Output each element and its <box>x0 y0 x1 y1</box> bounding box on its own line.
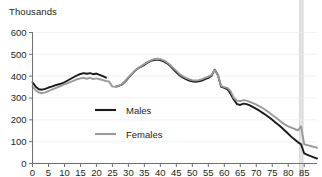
y-tick-label: 600 <box>11 27 27 38</box>
x-tick-label: 15 <box>75 167 86 177</box>
x-tick-label: 85 <box>299 167 310 177</box>
x-tick-label: 5 <box>46 167 51 177</box>
x-tick-label: 60 <box>219 167 230 177</box>
y-tick-label-layer: 0100200300400500600 <box>11 27 27 169</box>
x-tick-label: 80 <box>283 167 294 177</box>
axis-layer <box>29 32 317 167</box>
legend-label-females: Females <box>126 129 163 140</box>
x-tick-label: 0 <box>30 167 35 177</box>
x-tick-label: 30 <box>123 167 134 177</box>
series-layer <box>33 59 318 159</box>
x-tick-label-layer: 0510152025303540455055606570758085 <box>30 167 310 177</box>
chart-plot-area: 0100200300400500600 05101520253035404550… <box>0 0 322 177</box>
y-tick-label: 200 <box>11 114 27 125</box>
x-tick-label: 75 <box>267 167 278 177</box>
gridline-layer <box>33 33 318 142</box>
y-tick-label: 100 <box>11 136 27 147</box>
y-tick-label: 0 <box>21 158 26 169</box>
x-tick-label: 35 <box>139 167 150 177</box>
x-tick-label: 10 <box>59 167 70 177</box>
series-line-females <box>33 59 318 148</box>
x-tick-label: 55 <box>203 167 214 177</box>
y-tick-label: 300 <box>11 92 27 103</box>
x-tick-label: 45 <box>171 167 182 177</box>
x-tick-label: 50 <box>187 167 198 177</box>
x-tick-label: 20 <box>91 167 102 177</box>
y-tick-label: 500 <box>11 49 27 60</box>
x-tick-label: 40 <box>155 167 166 177</box>
population-by-age-chart: Thousands 0100200300400500600 0510152025… <box>0 0 322 177</box>
x-tick-label: 25 <box>107 167 118 177</box>
series-line-males <box>33 73 107 90</box>
y-tick-label: 400 <box>11 71 27 82</box>
x-tick-label: 70 <box>251 167 262 177</box>
chart-legend: MalesFemales <box>95 105 163 140</box>
legend-label-males: Males <box>126 105 152 116</box>
x-tick-label: 65 <box>235 167 246 177</box>
